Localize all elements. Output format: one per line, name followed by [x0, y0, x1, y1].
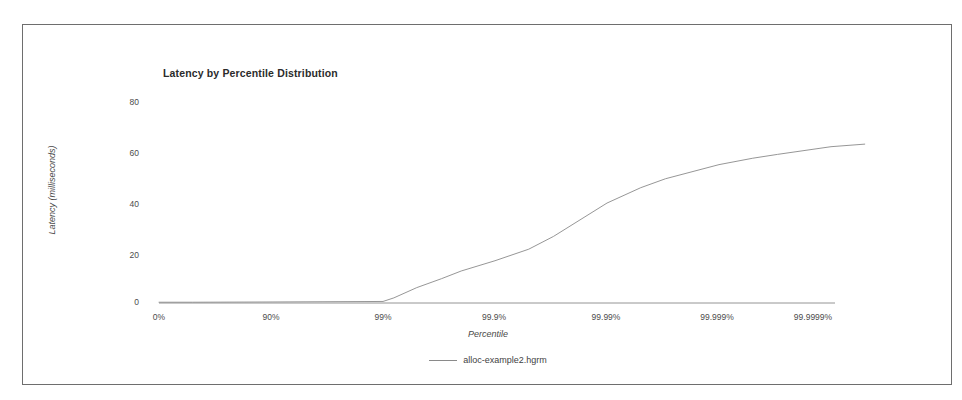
screenshot-canvas: Latency by Percentile Distribution Laten… [0, 0, 962, 400]
chart-inner: Latency by Percentile Distribution Laten… [23, 25, 951, 384]
series-line-alloc-example2 [159, 144, 865, 302]
legend-label: alloc-example2.hgrm [463, 355, 547, 365]
plot-area [23, 25, 953, 386]
legend-entry: alloc-example2.hgrm [429, 355, 547, 365]
legend-line-swatch-icon [429, 360, 457, 361]
chart-frame: Latency by Percentile Distribution Laten… [22, 24, 952, 385]
chart-legend: alloc-example2.hgrm [23, 355, 953, 365]
